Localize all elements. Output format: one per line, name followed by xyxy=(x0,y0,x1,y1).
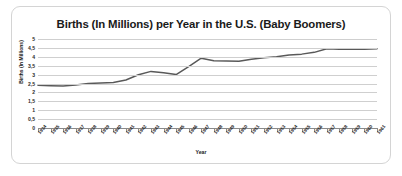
gridline xyxy=(38,101,377,102)
plot-area xyxy=(38,39,377,128)
y-axis-tick-labels: 00,511,522,533,544,55 xyxy=(12,39,37,128)
chart-card: Births (In Millions) per Year in the U.S… xyxy=(11,6,391,164)
gridline xyxy=(38,48,377,49)
gridline xyxy=(38,110,377,111)
y-axis-tick-label: 2 xyxy=(32,89,35,95)
y-axis-tick-label: 2,5 xyxy=(28,81,35,87)
gridline xyxy=(38,119,377,120)
x-axis-tick-label: 1961 xyxy=(376,124,387,135)
gridline xyxy=(38,57,377,58)
gridline xyxy=(38,84,377,85)
chart-title: Births (In Millions) per Year in the U.S… xyxy=(12,18,390,30)
y-axis-tick-label: 4,5 xyxy=(28,45,35,51)
y-axis-tick-label: 3,5 xyxy=(28,63,35,69)
y-axis-tick-label: 1 xyxy=(32,107,35,113)
y-axis-tick-label: 1,5 xyxy=(28,98,35,104)
gridline xyxy=(38,39,377,40)
y-axis-tick-label: 5 xyxy=(32,36,35,42)
gridline xyxy=(38,66,377,67)
y-axis-tick-label: 3 xyxy=(32,72,35,78)
gridline xyxy=(38,92,377,93)
y-axis-tick-label: 0 xyxy=(32,125,35,131)
y-axis-tick-label: 0,5 xyxy=(28,116,35,122)
y-axis-tick-label: 4 xyxy=(32,54,35,60)
gridline xyxy=(38,75,377,76)
x-axis-title: Year xyxy=(12,149,390,155)
